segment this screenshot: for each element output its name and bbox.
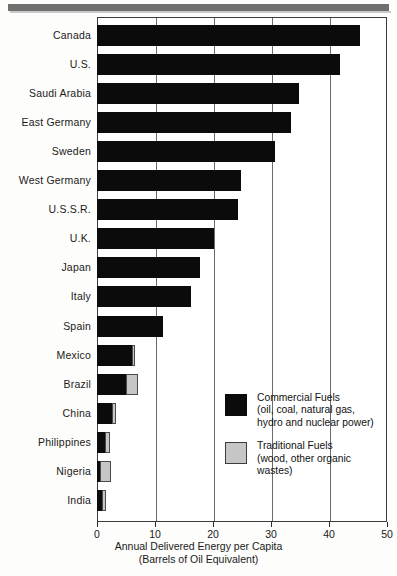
legend-item: Commercial Fuels(oil, coal, natural gas,…	[225, 392, 390, 429]
legend-label: Commercial Fuels(oil, coal, natural gas,…	[257, 392, 390, 429]
legend-label-line2: (oil, coal, natural gas,	[257, 404, 390, 416]
x-tick-label: 40	[323, 528, 335, 540]
x-axis-title: Annual Delivered Energy per Capita (Barr…	[0, 540, 397, 566]
category-label: U.S.	[0, 58, 91, 70]
category-label: Saudi Arabia	[0, 87, 91, 99]
category-label: Sweden	[0, 145, 91, 157]
x-tick-label: 10	[149, 528, 161, 540]
legend-label-line3: wastes)	[257, 465, 390, 477]
x-tick-40	[329, 522, 330, 527]
x-tick-label: 50	[381, 528, 393, 540]
chart-legend: Commercial Fuels(oil, coal, natural gas,…	[225, 392, 390, 488]
legend-swatch-light	[225, 442, 247, 464]
category-label: India	[0, 494, 91, 506]
category-label: Italy	[0, 290, 91, 302]
x-axis-title-line2: (Barrels of Oil Equivalent)	[0, 553, 397, 566]
category-label: Philippines	[0, 436, 91, 448]
legend-label-line2: (wood, other organic	[257, 453, 390, 465]
category-label: U.K.	[0, 232, 91, 244]
legend-swatch-dark	[225, 394, 247, 416]
category-label: East Germany	[0, 116, 91, 128]
x-tick-label: 20	[207, 528, 219, 540]
legend-label-line1: Commercial Fuels	[257, 392, 390, 404]
x-axis-ticks: 01020304050	[0, 522, 397, 542]
x-tick-20	[213, 522, 214, 527]
x-tick-10	[155, 522, 156, 527]
x-tick-50	[387, 522, 388, 527]
category-label: Japan	[0, 261, 91, 273]
top-rule-divider	[8, 4, 389, 11]
category-label: China	[0, 407, 91, 419]
category-label: West Germany	[0, 174, 91, 186]
x-tick-30	[271, 522, 272, 527]
legend-label: Traditional Fuels(wood, other organicwas…	[257, 440, 390, 477]
x-tick-0	[97, 522, 98, 527]
category-label: Mexico	[0, 349, 91, 361]
energy-per-capita-chart: CanadaU.S.Saudi ArabiaEast GermanySweden…	[0, 0, 397, 576]
x-tick-label: 0	[94, 528, 100, 540]
x-axis-title-line1: Annual Delivered Energy per Capita	[115, 540, 283, 552]
legend-label-line1: Traditional Fuels	[257, 440, 390, 452]
category-label: Brazil	[0, 378, 91, 390]
category-label: U.S.S.R.	[0, 203, 91, 215]
category-label: Spain	[0, 320, 91, 332]
x-tick-label: 30	[265, 528, 277, 540]
category-label: Nigeria	[0, 465, 91, 477]
category-label: Canada	[0, 29, 91, 41]
legend-label-line3: hydro and nuclear power)	[257, 417, 390, 429]
legend-item: Traditional Fuels(wood, other organicwas…	[225, 440, 390, 477]
